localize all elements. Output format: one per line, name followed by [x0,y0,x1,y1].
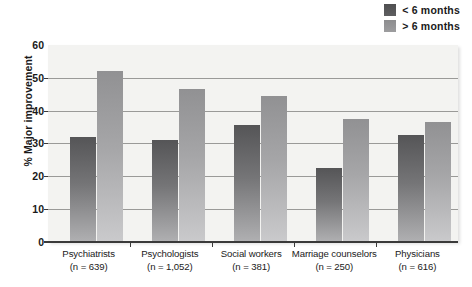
y-tick-50: 50 [4,72,44,84]
y-tick-40: 40 [4,105,44,117]
bar-marriage-counselors-less-than-6-months[interactable] [316,168,342,242]
bar-groups [48,45,458,242]
x-tick-mark-2 [212,242,213,247]
x-label-physicians-n: (n = 616) [377,261,458,274]
y-tick-20: 20 [4,170,44,182]
x-label-marriage-counselors-name: Marriage counselors [292,248,377,261]
y-tick-30: 30 [4,137,44,149]
dark-square-swatch-icon [384,4,396,16]
x-label-psychiatrists: Psychiatrists (n = 639) [48,248,129,273]
bar-group-psychologists [130,45,212,242]
bar-chart: < 6 months > 6 months % Major improvemen… [0,0,472,287]
x-tick-mark-3 [294,242,295,247]
x-label-physicians-name: Physicians [377,248,458,261]
y-tick-60: 60 [4,39,44,51]
x-axis-line [44,241,458,243]
x-label-psychologists-name: Psychologists [129,248,210,261]
legend-item-less-than-6-months: < 6 months [384,3,460,16]
x-label-marriage-counselors-n: (n = 250) [292,261,377,274]
light-square-swatch-icon [384,20,396,32]
bar-social-workers-less-than-6-months[interactable] [234,125,260,242]
chart-legend: < 6 months > 6 months [384,3,460,32]
x-tick-mark-4 [376,242,377,247]
bar-psychologists-greater-than-6-months[interactable] [179,89,205,242]
x-label-physicians: Physicians (n = 616) [377,248,458,273]
bar-psychiatrists-greater-than-6-months[interactable] [97,71,123,242]
bar-physicians-greater-than-6-months[interactable] [425,122,451,242]
bar-psychiatrists-less-than-6-months[interactable] [70,137,96,242]
x-label-psychiatrists-name: Psychiatrists [48,248,129,261]
x-label-psychiatrists-n: (n = 639) [48,261,129,274]
bar-group-psychiatrists [48,45,130,242]
x-label-marriage-counselors: Marriage counselors (n = 250) [292,248,377,273]
bar-social-workers-greater-than-6-months[interactable] [261,96,287,242]
legend-item-greater-than-6-months: > 6 months [384,19,460,32]
x-label-social-workers-n: (n = 381) [211,261,292,274]
legend-label-less-than-6-months: < 6 months [402,4,460,16]
bar-group-physicians [376,45,458,242]
y-tick-0: 0 [4,236,44,248]
x-label-psychologists: Psychologists (n = 1,052) [129,248,210,273]
bar-psychologists-less-than-6-months[interactable] [152,140,178,242]
bar-physicians-less-than-6-months[interactable] [398,135,424,242]
x-tick-mark-1 [130,242,131,247]
legend-label-greater-than-6-months: > 6 months [402,20,460,32]
x-label-social-workers-name: Social workers [211,248,292,261]
y-tick-10: 10 [4,203,44,215]
x-label-social-workers: Social workers (n = 381) [211,248,292,273]
bar-marriage-counselors-greater-than-6-months[interactable] [343,119,369,242]
bar-group-social-workers [212,45,294,242]
bar-group-marriage-counselors [294,45,376,242]
x-axis-labels: Psychiatrists (n = 639) Psychologists (n… [48,248,458,273]
x-label-psychologists-n: (n = 1,052) [129,261,210,274]
